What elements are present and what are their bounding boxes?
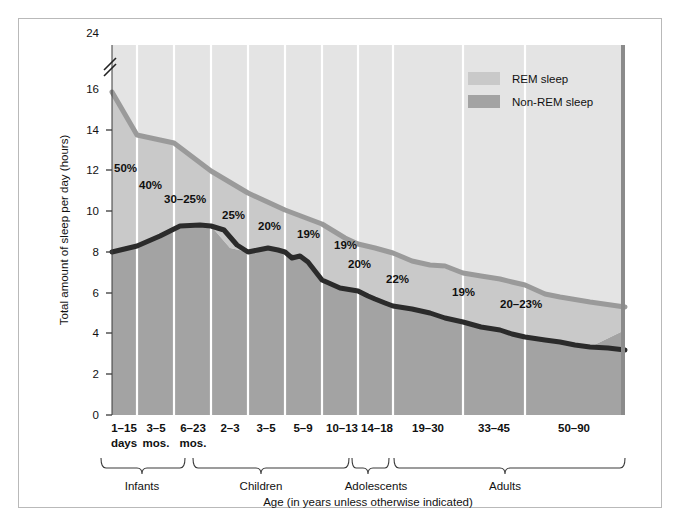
- x-tick-label: 6–23: [180, 422, 206, 434]
- y-axis: 24 16 14 12 10 8 6 4 2 0 Total amount of…: [58, 27, 116, 421]
- pct-annotation: 19%: [452, 286, 475, 298]
- pct-annotation: 20%: [258, 220, 281, 232]
- age-group-brackets: [101, 458, 625, 474]
- x-tick-label-sub: days: [111, 437, 137, 449]
- bracket-adults: [394, 458, 625, 474]
- pct-annotation: 19%: [334, 239, 357, 251]
- age-group-label: Adolescents: [345, 480, 408, 492]
- y-tick-label: 12: [86, 164, 99, 176]
- x-tick-label: 3–5: [256, 422, 276, 434]
- y-tick-label: 0: [93, 409, 99, 421]
- y-tick-label: 16: [86, 83, 99, 95]
- x-tick-label: 19–30: [412, 422, 444, 434]
- y-ticks: [106, 130, 112, 415]
- x-tick-label: 3–5: [146, 422, 166, 434]
- x-tick-label-sub: mos.: [143, 437, 170, 449]
- pct-annotation: 19%: [297, 228, 320, 240]
- y-tick-label: 24: [86, 27, 99, 39]
- y-axis-title: Total amount of sleep per day (hours): [58, 135, 70, 326]
- y-tick-label: 2: [93, 368, 99, 380]
- pct-annotation: 30–25%: [164, 193, 206, 205]
- legend-label-non-rem: Non-REM sleep: [512, 96, 593, 108]
- x-tick-label: 2–3: [220, 422, 239, 434]
- age-group-label: Children: [240, 480, 283, 492]
- bracket-children: [193, 458, 349, 474]
- x-tick-label: 50–90: [558, 422, 590, 434]
- x-axis-labels: 1–15 days 3–5 mos. 6–23 mos. 2–3 3–5 5–9…: [111, 422, 590, 449]
- x-tick-label-sub: mos.: [180, 437, 207, 449]
- y-tick-label: 4: [93, 327, 100, 339]
- bracket-adolescents: [352, 458, 389, 474]
- y-tick-label: 6: [93, 287, 99, 299]
- pct-annotation: 22%: [386, 273, 409, 285]
- pct-annotation: 25%: [222, 209, 245, 221]
- pct-annotation: 50%: [114, 162, 137, 174]
- figure-container: 24 16 14 12 10 8 6 4 2 0 Total amount of…: [0, 0, 680, 527]
- x-tick-label: 10–13: [326, 422, 358, 434]
- age-group-labels: Infants Children Adolescents Adults: [125, 480, 521, 492]
- age-group-label: Infants: [125, 480, 160, 492]
- age-group-label: Adults: [489, 480, 521, 492]
- y-tick-label: 10: [86, 205, 99, 217]
- pct-annotation: 40%: [139, 179, 162, 191]
- x-tick-label: 1–15: [111, 422, 137, 434]
- bracket-infants: [101, 458, 185, 474]
- x-axis-title: Age (in years unless otherwise indicated…: [263, 496, 473, 508]
- sleep-chart: 24 16 14 12 10 8 6 4 2 0 Total amount of…: [0, 0, 680, 527]
- x-tick-label: 5–9: [293, 422, 312, 434]
- pct-annotation: 20–23%: [500, 298, 542, 310]
- y-tick-label: 14: [86, 124, 99, 136]
- y-tick-label: 8: [93, 246, 99, 258]
- legend-label-rem: REM sleep: [512, 73, 568, 85]
- pct-annotation: 20%: [348, 258, 371, 270]
- x-tick-label: 14–18: [361, 422, 394, 434]
- legend-swatch-rem: [468, 72, 500, 85]
- x-tick-label: 33–45: [478, 422, 511, 434]
- legend-swatch-non-rem: [468, 95, 500, 108]
